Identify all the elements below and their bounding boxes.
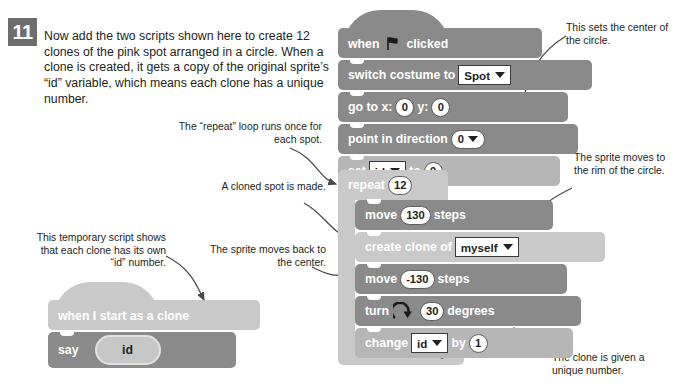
go-to-y-input[interactable]: 0 xyxy=(431,98,450,117)
block-notch xyxy=(367,199,381,204)
block-say[interactable]: say id xyxy=(48,332,236,368)
clone-target-value: myself xyxy=(461,241,498,254)
block-notch xyxy=(367,231,381,236)
note-temporary-script: This temporary script shows that each cl… xyxy=(26,232,166,270)
change-label: change xyxy=(365,336,408,350)
repeat-left-arm xyxy=(338,200,355,339)
block-notch xyxy=(350,123,364,128)
move-back-steps-input[interactable]: -130 xyxy=(400,270,434,289)
chevron-down-icon xyxy=(495,72,505,78)
block-when-green-flag-clicked[interactable]: when clicked xyxy=(338,28,542,58)
chevron-down-icon xyxy=(503,244,513,250)
block-change-variable[interactable]: change id by 1 xyxy=(355,328,573,358)
clone-target-dropdown[interactable]: myself xyxy=(455,237,519,257)
note-sprite-back-to-center: The sprite moves back to the center. xyxy=(202,244,326,269)
say-label: say xyxy=(58,343,79,357)
change-value-input[interactable]: 1 xyxy=(469,334,488,353)
costume-dropdown[interactable]: Spot xyxy=(458,65,511,85)
block-notch xyxy=(367,263,381,268)
move-steps-input[interactable]: 130 xyxy=(400,206,431,225)
chevron-down-icon xyxy=(468,136,478,142)
repeat-times-input[interactable]: 12 xyxy=(388,176,412,195)
move-label: move xyxy=(365,208,397,222)
block-point-in-direction[interactable]: point in direction 0 xyxy=(338,124,578,154)
go-to-y-label: y: xyxy=(417,100,428,114)
go-to-x-input[interactable]: 0 xyxy=(395,98,414,117)
block-move-steps-back[interactable]: move -130 steps xyxy=(355,264,567,294)
change-variable-name: id xyxy=(417,337,427,350)
step-instruction-text: Now add the two scripts shown here to cr… xyxy=(44,29,344,107)
move-steps-label: steps xyxy=(434,208,466,222)
change-by-label: by xyxy=(451,336,465,350)
note-sets-center: This sets the center of the circle. xyxy=(566,22,678,47)
block-notch xyxy=(350,155,364,160)
direction-dropdown[interactable]: 0 xyxy=(451,130,485,149)
point-direction-label: point in direction xyxy=(348,132,448,146)
repeat-header[interactable]: repeat 12 xyxy=(338,170,448,200)
repeat-label: repeat xyxy=(348,178,385,192)
green-flag-icon xyxy=(385,36,400,51)
variable-reporter-id[interactable]: id xyxy=(95,335,161,365)
chevron-down-icon xyxy=(432,340,442,346)
change-variable-dropdown[interactable]: id xyxy=(411,333,448,353)
turn-right-icon xyxy=(393,302,413,320)
note-moves-to-rim: The sprite moves to the rim of the circl… xyxy=(574,152,678,177)
block-turn-degrees[interactable]: turn 30 degrees xyxy=(355,296,581,326)
block-switch-costume-to[interactable]: switch costume to Spot xyxy=(338,60,592,90)
step-number: 11 xyxy=(12,22,32,42)
turn-degrees-input[interactable]: 30 xyxy=(420,302,444,321)
go-to-x-label: go to x: xyxy=(348,100,392,114)
when-clone-label: when I start as a clone xyxy=(58,309,189,323)
block-create-clone-of[interactable]: create clone of myself xyxy=(355,232,605,262)
clicked-label: clicked xyxy=(406,37,448,51)
block-notch xyxy=(350,91,364,96)
block-notch xyxy=(60,331,74,336)
block-when-i-start-as-a-clone[interactable]: when I start as a clone xyxy=(48,300,260,330)
move-back-steps-label: steps xyxy=(438,272,470,286)
block-notch xyxy=(367,327,381,332)
turn-degrees-label: degrees xyxy=(447,304,494,318)
note-cloned-spot: A cloned spot is made. xyxy=(218,181,326,194)
step-number-badge: 11 xyxy=(8,18,37,46)
block-notch xyxy=(367,295,381,300)
block-notch xyxy=(350,59,364,64)
block-go-to-xy[interactable]: go to x: 0 y: 0 xyxy=(338,92,568,122)
note-repeat-loop: The “repeat” loop runs once for each spo… xyxy=(172,121,322,146)
create-clone-label: create clone of xyxy=(365,240,452,254)
turn-label: turn xyxy=(365,304,389,318)
move-back-label: move xyxy=(365,272,397,286)
when-label: when xyxy=(348,37,379,51)
direction-value: 0 xyxy=(458,133,464,145)
costume-value: Spot xyxy=(464,69,490,82)
switch-costume-label: switch costume to xyxy=(348,68,455,82)
block-move-steps-out[interactable]: move 130 steps xyxy=(355,200,553,230)
